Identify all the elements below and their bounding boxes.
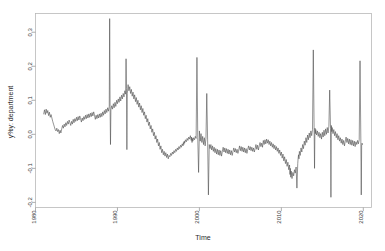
x-tick-label: 2000 [194, 210, 200, 224]
y-tick-label: 0.1 [27, 95, 33, 104]
x-tick-label: 2020 [358, 210, 364, 224]
x-tick-label: 1990 [112, 210, 118, 224]
chart-background [0, 0, 385, 251]
y-tick-label: 0.2 [27, 61, 33, 70]
y-tick-label: -0.2 [27, 197, 33, 208]
x-tick-label: 1980 [31, 210, 37, 224]
timeseries-chart: -0.2-0.10.00.10.20.3 1980199020002010202… [0, 0, 385, 251]
y-tick-label: 0.3 [27, 27, 33, 36]
y-axis-title: y%y: department [7, 86, 15, 139]
x-axis-title: Time [195, 234, 210, 241]
y-tick-label: -0.1 [27, 163, 33, 174]
chart-figure: -0.2-0.10.00.10.20.3 1980199020002010202… [0, 0, 385, 251]
y-tick-label: 0.0 [27, 129, 33, 138]
x-tick-label: 2010 [276, 210, 282, 224]
